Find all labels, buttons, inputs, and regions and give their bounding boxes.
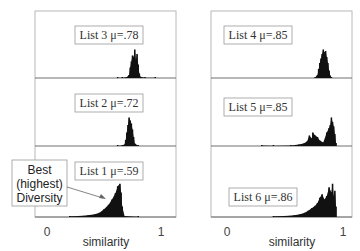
- axis-layer: 0 1 similarity 0 1 similarity: [44, 225, 347, 249]
- histogram-panel-list-6: List 6 μ=.86: [211, 184, 352, 217]
- panel-label-text: List 1 μ=.59: [80, 164, 139, 178]
- histogram-panel-list-5: List 5 μ=.85: [211, 98, 352, 146]
- panel-label-text: List 6 μ=.86: [234, 190, 293, 204]
- callout-line-1: Best: [27, 163, 52, 177]
- right-x-tick-0: 0: [224, 225, 231, 239]
- panel-label: List 3 μ=.78: [75, 26, 143, 44]
- histogram-panel-list-3: List 3 μ=.78: [35, 26, 176, 78]
- callout-arrow-head: [99, 194, 106, 199]
- panel-label: List 2 μ=.72: [75, 94, 143, 112]
- left-x-axis-title: similarity: [83, 235, 130, 249]
- panel-label: List 5 μ=.85: [224, 98, 292, 116]
- panels-layer: List 3 μ=.78List 2 μ=.72List 1 μ=.59List…: [35, 11, 352, 217]
- panel-label-text: List 4 μ=.85: [229, 28, 288, 42]
- panel-label: List 1 μ=.59: [75, 162, 143, 180]
- panel-label-text: List 3 μ=.78: [80, 28, 139, 42]
- callout-arrow-line: [67, 187, 103, 198]
- histogram-area: [118, 118, 139, 147]
- histogram-area: [315, 50, 331, 79]
- histogram-area: [118, 50, 156, 79]
- panel-label-text: List 2 μ=.72: [80, 96, 139, 110]
- panel-label-text: List 5 μ=.85: [229, 100, 288, 114]
- right-x-axis-title: similarity: [269, 235, 316, 249]
- callout-line-3: Diversity: [16, 191, 62, 205]
- histogram-area: [70, 184, 138, 217]
- histogram-grid-chart: List 3 μ=.78List 2 μ=.72List 1 μ=.59List…: [0, 0, 360, 251]
- panel-label: List 4 μ=.85: [224, 26, 292, 44]
- panel-label: List 6 μ=.86: [229, 188, 297, 206]
- left-x-tick-1: 1: [158, 225, 165, 239]
- histogram-area: [262, 118, 336, 147]
- histogram-panel-list-4: List 4 μ=.85: [211, 26, 352, 78]
- histogram-panel-list-2: List 2 μ=.72: [35, 94, 176, 146]
- right-x-tick-1: 1: [340, 225, 347, 239]
- callout-line-2: (highest): [16, 177, 63, 191]
- left-x-tick-0: 0: [44, 225, 51, 239]
